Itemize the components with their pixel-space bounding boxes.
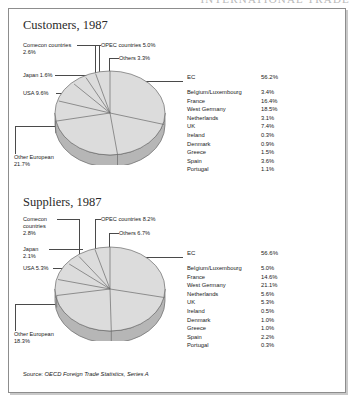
legend-row: Belgium/Luxembourg 5.0% xyxy=(187,264,337,273)
legend-row-value: 5.0% xyxy=(261,264,299,273)
legend-row-value: 2.2% xyxy=(261,333,299,342)
legend-row: UK 5.3% xyxy=(187,298,337,307)
legend-row-name: Greece xyxy=(187,148,261,157)
legend-row-value: 14.6% xyxy=(261,273,299,282)
legend-row: UK 7.4% xyxy=(187,122,337,131)
legend-row: France 16.4% xyxy=(187,97,337,106)
legend-row-value: 3.6% xyxy=(261,157,299,166)
legend-row-value: 5.6% xyxy=(261,290,299,299)
legend-row-value: 21.1% xyxy=(261,281,299,290)
legend-row-name: Greece xyxy=(187,324,261,333)
legend-row-value: 3.4% xyxy=(261,88,299,97)
legend-row-name: Netherlands xyxy=(187,114,261,123)
legend-row-value: 7.4% xyxy=(261,122,299,131)
leader-line xyxy=(15,304,16,331)
legend-row: Greece 1.5% xyxy=(187,148,337,157)
callout-suppliers-opec: OPEC countries 8.2% xyxy=(101,216,155,223)
callout-customers-japan: Japan 1.6% xyxy=(23,72,53,79)
legend-row-name: Denmark xyxy=(187,316,261,325)
legend-row-name: UK xyxy=(187,122,261,131)
legend-main-row: EC 56.6% xyxy=(187,249,337,258)
legend-row-name: Ireland xyxy=(187,131,261,140)
legend-row: Netherlands 5.6% xyxy=(187,290,337,299)
source-note: Source: OECD Foreign Trade Statistics, S… xyxy=(23,371,149,377)
legend-row-name: France xyxy=(187,97,261,106)
source-citation: OECD Foreign Trade Statistics, Series A xyxy=(45,371,149,377)
callout-suppliers-japan: Japan 2.1% xyxy=(23,246,49,260)
legend-row-name: Portugal xyxy=(187,165,261,174)
legend-row: Belgium/Luxembourg 3.4% xyxy=(187,88,337,97)
chart-title-customers: Customers, 1987 xyxy=(23,18,108,33)
legend-row: West Germany 21.1% xyxy=(187,281,337,290)
legend-main-value: 56.6% xyxy=(261,249,299,258)
legend-row-value: 0.3% xyxy=(261,341,299,350)
legend-row: Spain 3.6% xyxy=(187,157,337,166)
pie-chart-customers xyxy=(51,61,169,165)
legend-main-name: EC xyxy=(187,73,261,82)
legend-row: Portugal 0.3% xyxy=(187,341,337,350)
legend-row: Spain 2.2% xyxy=(187,333,337,342)
leader-line xyxy=(109,233,119,234)
callout-customers-opec: OPEC countries 5.0% xyxy=(101,42,155,49)
legend-row-name: Netherlands xyxy=(187,290,261,299)
legend-row-value: 1.0% xyxy=(261,316,299,325)
legend-row-value: 1.5% xyxy=(261,148,299,157)
legend-row: Portugal 1.1% xyxy=(187,165,337,174)
legend-row-name: Spain xyxy=(187,333,261,342)
legend-row-value: 5.3% xyxy=(261,298,299,307)
leader-line xyxy=(57,219,79,220)
page-frame: Customers, 1987 Comecon countries 2.6% O… xyxy=(8,8,346,393)
legend-row-name: Belgium/Luxembourg xyxy=(187,264,261,273)
legend-row-value: 3.1% xyxy=(261,114,299,123)
legend-row-name: West Germany xyxy=(187,105,261,114)
legend-row-value: 18.5% xyxy=(261,105,299,114)
legend-row-name: UK xyxy=(187,298,261,307)
callout-customers-usa: USA 9.6% xyxy=(23,90,49,97)
legend-row-value: 0.5% xyxy=(261,307,299,316)
legend-row: Ireland 0.3% xyxy=(187,131,337,140)
legend-row-name: Belgium/Luxembourg xyxy=(187,88,261,97)
callout-suppliers-comecon: Comecon countries 2.8% xyxy=(23,216,57,238)
callout-customers-comecon: Comecon countries 2.6% xyxy=(23,42,75,56)
chart-title-suppliers: Suppliers, 1987 xyxy=(23,195,101,210)
legend-row: France 14.6% xyxy=(187,273,337,282)
legend-row-name: Portugal xyxy=(187,341,261,350)
legend-row: West Germany 18.5% xyxy=(187,105,337,114)
legend-row: Greece 1.0% xyxy=(187,324,337,333)
legend-row-value: 0.3% xyxy=(261,131,299,140)
legend-row: Netherlands 3.1% xyxy=(187,114,337,123)
callout-suppliers-usa: USA 5.3% xyxy=(23,265,49,272)
pie-chart-suppliers xyxy=(51,237,169,341)
leader-line xyxy=(15,126,16,154)
legend-row-name: Denmark xyxy=(187,140,261,149)
legend-row: Ireland 0.5% xyxy=(187,307,337,316)
legend-row-name: France xyxy=(187,273,261,282)
legend-main-row: EC 56.2% xyxy=(187,73,337,82)
legend-row: Denmark 0.9% xyxy=(187,140,337,149)
legend-row-name: Ireland xyxy=(187,307,261,316)
source-label: Source: xyxy=(23,371,43,377)
legend-customers: EC 56.2% Belgium/Luxembourg 3.4% France … xyxy=(187,73,337,174)
legend-row-value: 16.4% xyxy=(261,97,299,106)
legend-row-value: 1.0% xyxy=(261,324,299,333)
leader-line xyxy=(109,58,119,59)
running-head: INTERNATIONAL TRADE xyxy=(150,0,350,5)
legend-row-name: West Germany xyxy=(187,281,261,290)
legend-suppliers: EC 56.6% Belgium/Luxembourg 5.0% France … xyxy=(187,249,337,350)
legend-row-name: Spain xyxy=(187,157,261,166)
legend-row-value: 1.1% xyxy=(261,165,299,174)
legend-row: Denmark 1.0% xyxy=(187,316,337,325)
legend-main-value: 56.2% xyxy=(261,73,299,82)
legend-main-name: EC xyxy=(187,249,261,258)
legend-row-value: 0.9% xyxy=(261,140,299,149)
